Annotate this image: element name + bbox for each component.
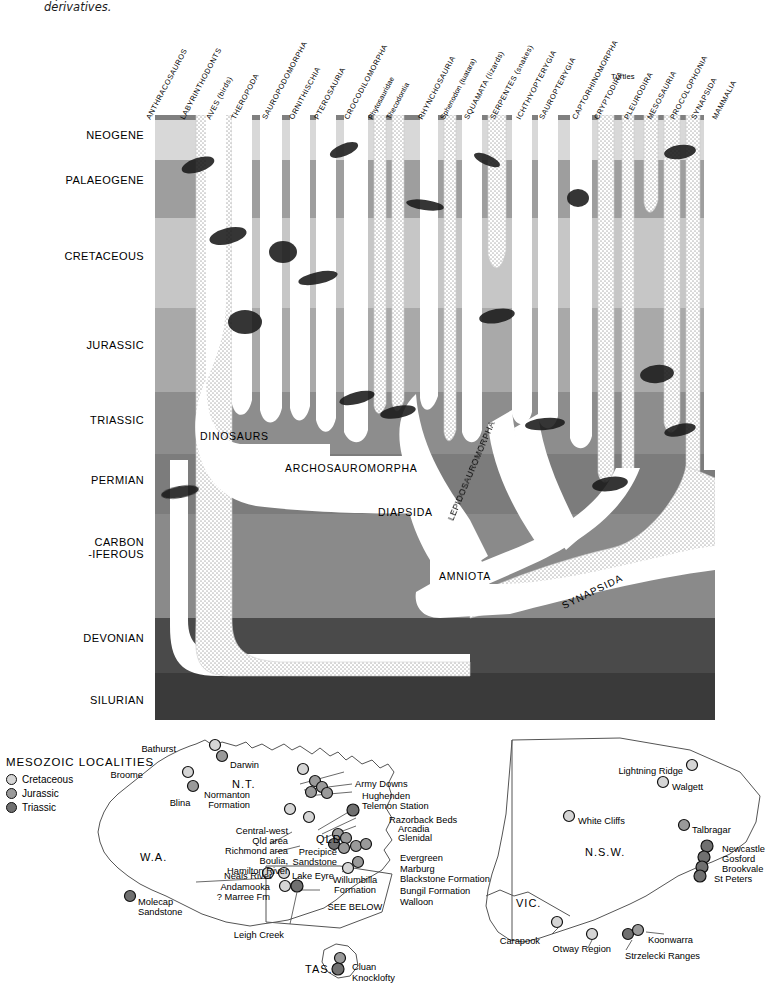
map-place-broome: Broome xyxy=(83,770,143,780)
ribbon-mammalia xyxy=(704,115,715,470)
map-place-strzelecki-ranges: Strzelecki Ranges xyxy=(597,951,700,961)
dot-central-west xyxy=(304,812,315,823)
map-place-white-cliffs: White Cliffs xyxy=(578,816,625,826)
dot-st-peters xyxy=(694,870,706,882)
legend-label-triassic: Triassic xyxy=(22,802,56,813)
map-place-knocklofty: Knocklofty xyxy=(352,973,395,983)
map-place-richmond-area: Richmond area xyxy=(204,846,288,856)
map-place-blackstone-formation: Blackstone Formation xyxy=(400,874,490,884)
dot-blackstone xyxy=(353,857,364,868)
ribbon-ornithischia xyxy=(290,115,310,421)
taxon-group-label-turtles: Turtles xyxy=(611,72,635,81)
map-place-newcastle: Newcastle xyxy=(722,844,765,854)
dot-strzelecki-1 xyxy=(623,929,634,940)
map-place-normanton: Normanton Formation xyxy=(178,790,250,810)
map-place-marburg: Marburg xyxy=(400,864,435,874)
ribbon-mesosauria xyxy=(644,115,658,212)
illustration-turtle xyxy=(567,189,589,207)
dot-bungil xyxy=(343,863,354,874)
period-label-jurassic: JURASSIC xyxy=(86,339,144,351)
ribbon-pleurodira xyxy=(622,115,634,485)
map-place-see-below: SEE BELOW xyxy=(313,902,397,912)
ribbon-theropoda xyxy=(232,115,252,415)
illustration-sauropod xyxy=(228,310,262,334)
map-region-tas: TAS. xyxy=(305,963,333,975)
dot-richmond xyxy=(285,804,296,815)
map-place-cluan: Cluan xyxy=(352,962,376,972)
ribbon-cryptodira xyxy=(598,115,614,482)
map-place-telemon-station: Telemon Station xyxy=(362,801,429,811)
map-place-leigh-creek: Leigh Creek xyxy=(218,930,284,940)
map-place-lightning-ridge: Lightning Ridge xyxy=(593,766,683,776)
locality-leader-lines-2 xyxy=(290,892,664,950)
illustration-dinosaur-2 xyxy=(269,241,297,263)
map-region-nt: N.T. xyxy=(232,778,256,790)
map-region-qld: QLD. xyxy=(316,833,346,845)
map-place-molecap-sandstone: Molecap Sandstone xyxy=(138,897,182,917)
ribbon-rhynchosauria xyxy=(420,115,438,410)
map-place-talbragar: Talbragar xyxy=(692,825,731,835)
map-place-darwin: Darwin xyxy=(230,760,259,770)
phylogeny-chart: NEOGENE PALAEOGENE CRETACEOUS JURASSIC T… xyxy=(0,0,776,730)
period-label-triassic: TRIASSIC xyxy=(90,414,144,426)
dot-lightning-ridge xyxy=(687,760,698,771)
clade-label-archosauromorpha: ARCHOSAUROMORPHA xyxy=(285,462,418,474)
dot-andamooka xyxy=(280,881,291,892)
map-place-brookvale: Brookvale xyxy=(722,864,763,874)
map-place-hughenden: Hughenden xyxy=(362,791,410,801)
dot-knocklofty xyxy=(332,963,344,975)
clade-label-amniota: AMNIOTA xyxy=(439,570,491,582)
legend-item-jurassic: Jurassic xyxy=(6,788,156,799)
ribbon-sphenodon xyxy=(444,115,456,441)
dot-darwin xyxy=(217,751,228,762)
legend-dot-triassic-icon xyxy=(6,802,17,813)
dot-white-cliffs xyxy=(564,811,575,822)
dot-normanton xyxy=(298,764,309,775)
dot-cluan xyxy=(335,953,346,964)
map-place-koonwarra: Koonwarra xyxy=(648,935,693,945)
phylogeny-and-localities-figure: reptiles and their derivatives. xyxy=(0,0,776,990)
ribbon-procolophonia xyxy=(664,115,680,432)
dot-talbragar xyxy=(679,820,690,831)
period-label-neogene: NEOGENE xyxy=(86,129,144,141)
period-label-silurian: SILURIAN xyxy=(90,694,144,706)
ribbon-captorhinomorpha xyxy=(570,115,592,448)
map-place-walgett: Walgett xyxy=(672,782,703,792)
map-place-precipice-sandstone: Precipice Sandstone xyxy=(282,847,337,867)
map-place-willumbilla-formation: Willumbilla Formation xyxy=(313,875,397,895)
map-place-neals-river: Neals River xyxy=(202,871,272,881)
legend-title: MESOZOIC LOCALITIES xyxy=(6,756,156,768)
map-region-vic: VIC. xyxy=(516,897,541,909)
dot-strzelecki-2 xyxy=(633,925,644,936)
dot-newcastle xyxy=(701,840,713,852)
map-place-bungil-formation: Bungil Formation xyxy=(400,886,470,896)
ribbon-thecodontia xyxy=(392,115,404,411)
map-place-evergreen: Evergreen xyxy=(400,853,443,863)
dot-molecap xyxy=(125,891,136,902)
map-place-andamooka: Andamooka ? Marree Fm xyxy=(190,882,270,902)
map-legend: MESOZOIC LOCALITIES Cretaceous Jurassic … xyxy=(6,756,156,816)
dot-otway xyxy=(587,929,598,940)
map-region-nsw: N.S.W. xyxy=(585,846,625,858)
ribbon-squamata xyxy=(462,115,482,442)
dot-razorback xyxy=(347,804,359,816)
ribbon-ichthyopterygia xyxy=(512,115,532,424)
legend-dot-cretaceous-icon xyxy=(6,774,17,785)
dot-marburg xyxy=(361,839,372,850)
map-place-st-peters: St Peters xyxy=(714,874,752,884)
legend-item-triassic: Triassic xyxy=(6,802,156,813)
period-label-devonian: DEVONIAN xyxy=(83,632,144,644)
dot-walgett xyxy=(658,777,669,788)
map-place-glenidal: Glenidal xyxy=(398,833,432,843)
map-place-bathurst: Bathurst xyxy=(96,744,176,754)
period-label-permian: PERMIAN xyxy=(91,474,144,486)
clade-label-dinosaurs: DINOSAURS xyxy=(200,430,269,442)
dot-evergreen xyxy=(351,841,362,852)
legend-label-cretaceous: Cretaceous xyxy=(22,774,73,785)
dot-leigh-creek xyxy=(291,880,303,892)
period-label-carboniferous: CARBON -IFEROUS xyxy=(88,536,144,560)
clade-label-diapsida: DIAPSIDA xyxy=(378,506,433,518)
map-region-wa: W.A. xyxy=(140,851,167,863)
ribbon-phytosauridae xyxy=(374,115,386,413)
ribbon-sauropterygia xyxy=(538,115,558,428)
